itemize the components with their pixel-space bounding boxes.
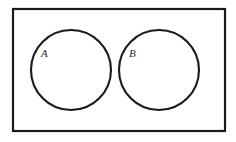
set-b-label: B	[129, 47, 136, 59]
venn-diagram-figure: A B	[0, 0, 236, 142]
set-a-label: A	[40, 47, 48, 59]
venn-diagram-canvas: A B	[0, 0, 236, 142]
